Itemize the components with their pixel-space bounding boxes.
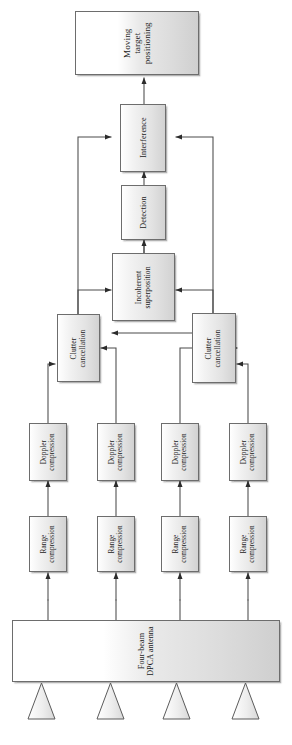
beam-3-icon xyxy=(162,682,192,722)
node-label-incoherent-superposition: Incoherentsuperposition xyxy=(135,266,152,308)
node-moving-target-positioning: Movingtargetpositioning xyxy=(75,11,199,75)
node-label-range-compression-1: Rangecompression xyxy=(40,525,56,562)
wire-clutter-left-to-interference xyxy=(78,137,111,314)
node-four-beam-dpca-antenna: Four-beamDPCA antenna xyxy=(12,620,280,682)
wire-doppler-2-to-clutter-left xyxy=(101,348,116,423)
beam-4-icon xyxy=(231,682,261,722)
wire-doppler-1-to-clutter-left xyxy=(48,364,55,423)
node-label-four-beam-dpca-antenna: Four-beamDPCA antenna xyxy=(137,626,155,676)
wire-doppler-4-to-clutter-right xyxy=(237,364,248,423)
node-detection: Detection xyxy=(121,185,166,240)
node-label-range-compression-4: Rangecompression xyxy=(240,525,256,562)
node-label-doppler-compression-3: Dopplercompression xyxy=(172,433,188,470)
node-label-detection: Detection xyxy=(139,196,148,228)
node-label-range-compression-3: Rangecompression xyxy=(172,525,188,562)
node-incoherent-superposition: Incoherentsuperposition xyxy=(112,253,175,321)
wire-clutter-right-to-incoherent xyxy=(176,290,213,313)
wire-clutter-right-to-interference xyxy=(176,137,213,313)
node-range-compression-2: Rangecompression xyxy=(97,516,135,572)
node-doppler-compression-1: Dopplercompression xyxy=(29,423,67,481)
node-label-clutter-cancellation-left: Cluttercancellation xyxy=(70,329,87,367)
node-label-doppler-compression-2: Dopplercompression xyxy=(108,433,124,470)
node-doppler-compression-4: Dopplercompression xyxy=(229,423,267,481)
node-doppler-compression-2: Dopplercompression xyxy=(97,423,135,481)
node-interference: Interference xyxy=(120,104,166,172)
node-label-doppler-compression-4: Dopplercompression xyxy=(240,433,256,470)
beam-2-icon xyxy=(96,682,126,722)
node-clutter-cancellation-left: Cluttercancellation xyxy=(57,314,100,382)
signal-processing-flow-diagram: Movingtargetpositioning Interference Det… xyxy=(0,0,292,745)
node-clutter-cancellation-right: Cluttercancellation xyxy=(192,313,236,383)
node-range-compression-3: Rangecompression xyxy=(161,516,199,572)
node-label-interference: Interference xyxy=(138,118,147,158)
node-label-moving-target-positioning: Movingtargetpositioning xyxy=(122,22,153,64)
wire-clutter-left-to-incoherent xyxy=(78,290,111,314)
node-label-range-compression-2: Rangecompression xyxy=(108,525,124,562)
node-range-compression-1: Rangecompression xyxy=(29,516,67,572)
node-label-doppler-compression-1: Dopplercompression xyxy=(40,433,56,470)
node-doppler-compression-3: Dopplercompression xyxy=(161,423,199,481)
beam-1-icon xyxy=(27,682,57,722)
node-range-compression-4: Rangecompression xyxy=(229,516,267,572)
node-label-clutter-cancellation-right: Cluttercancellation xyxy=(205,329,222,367)
